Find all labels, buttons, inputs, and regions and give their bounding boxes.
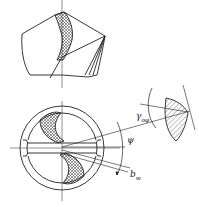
- psi-symbol: ψ: [127, 135, 134, 145]
- gamma-arc: [148, 88, 156, 128]
- section-hatched: [165, 98, 188, 141]
- drill-geometry-drawing: [0, 0, 199, 207]
- gamma-subscript: oφ: [141, 116, 149, 123]
- side-view: [22, 0, 105, 88]
- psi-label: ψ: [127, 136, 134, 145]
- bw-subscript: w: [136, 174, 141, 181]
- end-view: [10, 101, 190, 201]
- lower-lip-hatched: [60, 153, 84, 184]
- bw-label: bw: [130, 170, 141, 181]
- upper-lip-hatched: [40, 112, 64, 143]
- gamma-label: γoφ: [136, 112, 149, 123]
